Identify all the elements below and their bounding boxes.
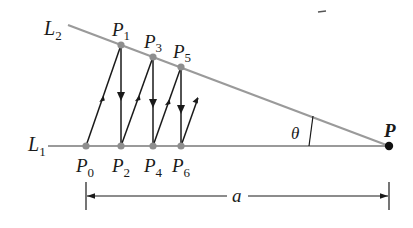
label-theta: θ (291, 124, 299, 143)
arrow-down-icon (149, 99, 157, 108)
label-l1: L1 (27, 133, 46, 159)
label-vertex-p: P (383, 120, 396, 141)
zigzag-projection-diagram: L2 L1 P1 P3 P5 P0 P2 P4 P6 P θ a (0, 0, 413, 228)
label-p6: P6 (171, 155, 191, 180)
dimension-a: a (86, 182, 389, 210)
point-p4 (149, 142, 156, 149)
points (82, 41, 393, 150)
label-l2: L2 (43, 17, 62, 43)
arrow-up-icon (165, 99, 171, 105)
angle-arc (309, 116, 313, 146)
label-p4: P4 (143, 155, 163, 180)
label-p5: P5 (172, 41, 191, 65)
label-p3: P3 (143, 31, 162, 55)
point-p2 (117, 142, 124, 149)
label-p2: P2 (111, 155, 130, 180)
stray-mark (318, 11, 326, 12)
arrow-up-icon (193, 97, 199, 103)
arrow-up-icon (99, 96, 105, 103)
point-p0 (82, 142, 89, 149)
label-p1: P1 (111, 19, 130, 43)
vertex-p (385, 142, 393, 150)
line-l2 (68, 25, 389, 146)
arrow-down-icon (117, 92, 125, 101)
label-a: a (232, 185, 242, 206)
point-p6 (177, 142, 184, 149)
arrow-up-icon (135, 95, 141, 101)
point-p5 (177, 63, 184, 70)
arrow-down-icon (177, 105, 185, 114)
label-p0: P0 (75, 155, 94, 180)
